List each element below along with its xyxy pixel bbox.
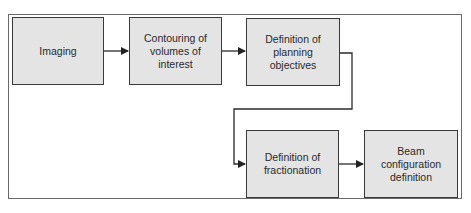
- node-label: Definition of planning objectives: [258, 33, 328, 72]
- node-label: Definition of fractionation: [257, 151, 329, 177]
- node-beam-configuration: Beam configuration definition: [364, 130, 458, 198]
- node-label: Imaging: [39, 45, 76, 58]
- node-imaging: Imaging: [12, 17, 104, 85]
- node-contouring: Contouring of volumes of interest: [129, 17, 222, 85]
- node-fractionation: Definition of fractionation: [246, 130, 339, 198]
- node-label: Contouring of volumes of interest: [136, 32, 216, 71]
- node-label: Beam configuration definition: [376, 145, 446, 184]
- node-planning-objectives: Definition of planning objectives: [246, 18, 340, 86]
